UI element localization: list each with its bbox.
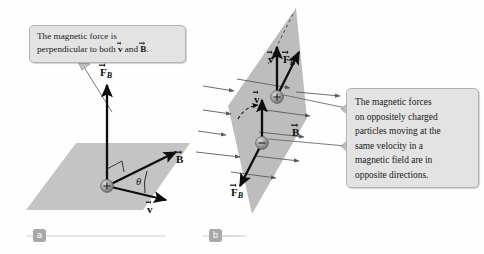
callout-left-and: and: [122, 44, 140, 54]
label-force-b-lower: FB: [231, 186, 243, 200]
physics-figure: The magnetic force is perpendicular to b…: [0, 0, 484, 254]
panel-label-a: a: [33, 229, 46, 242]
callout-left-line2-text: perpendicular to both: [37, 44, 118, 54]
callout-right-line6: opposite directions.: [355, 168, 472, 183]
label-force-b-upper: FB: [283, 53, 295, 67]
bfield-symbol-inline: B: [140, 44, 146, 54]
force-symbol-a: F: [100, 66, 107, 78]
panel-label-b: b: [209, 229, 222, 242]
callout-right-line5: magnetic field are in: [355, 153, 472, 168]
velocity-symbol-a: v: [147, 203, 153, 215]
label-velocity-b-lower: v: [254, 93, 260, 105]
label-velocity-a: v: [147, 203, 153, 215]
velocity-symbol-text: v: [118, 44, 123, 54]
field-line-6: [198, 131, 226, 135]
callout-right: The magnetic forces on oppositely charge…: [346, 88, 479, 188]
force-symbol-b-lower: F: [231, 186, 238, 198]
force-subscript-b-lower: B: [238, 191, 243, 200]
callout-left: The magnetic force is perpendicular to b…: [29, 25, 186, 63]
label-force-a: FB: [100, 66, 112, 80]
callout-right-line2: on oppositely charged: [355, 110, 472, 125]
callout-left-line1: The magnetic force is: [37, 31, 117, 41]
force-symbol-b-lower-text: F: [231, 186, 238, 198]
velocity-symbol-a-text: v: [147, 203, 153, 215]
bfield-symbol-b: B: [292, 126, 299, 138]
label-velocity-b-upper: v: [268, 53, 274, 65]
force-symbol-b-upper-text: F: [283, 53, 290, 65]
field-line-4: [203, 110, 231, 114]
force-symbol-b-upper: F: [283, 53, 290, 65]
callout-right-line3: particles moving at the: [355, 124, 472, 139]
label-bfield-a: B: [176, 153, 183, 165]
velocity-symbol-b-lower: v: [254, 93, 260, 105]
velocity-symbol-b-lower-text: v: [254, 93, 260, 105]
callout-right-line4: same velocity in a: [355, 139, 472, 154]
label-theta-a: θ: [136, 176, 141, 187]
tilted-plane: [228, 8, 307, 214]
force-subscript-b-upper: B: [290, 58, 295, 67]
label-bfield-b: B: [292, 126, 299, 138]
field-line-2: [203, 86, 234, 91]
bfield-symbol-b-text: B: [292, 126, 299, 138]
bfield-symbol-text: B: [140, 44, 146, 54]
force-symbol-a-text: F: [100, 66, 107, 78]
velocity-symbol-b-upper: v: [268, 53, 274, 65]
callout-right-line1: The magnetic forces: [355, 95, 472, 110]
bfield-symbol-a: B: [176, 153, 183, 165]
field-line-8: [196, 152, 240, 157]
bfield-symbol-a-text: B: [176, 153, 183, 165]
callout-left-period: .: [146, 44, 148, 54]
velocity-symbol-inline: v: [118, 44, 123, 54]
velocity-symbol-b-upper-text: v: [268, 53, 274, 65]
force-subscript-a: B: [107, 71, 112, 80]
panel-b-plane-group: [228, 8, 307, 214]
callout-left-leader-tip: [78, 62, 90, 70]
